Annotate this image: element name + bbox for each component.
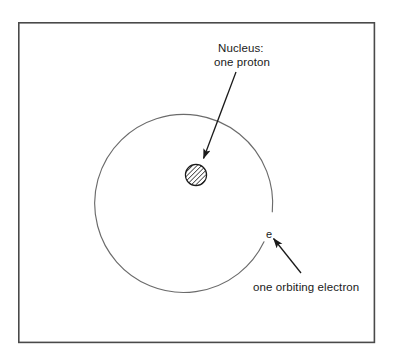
hydrogen-atom-figure: Nucleus: one proton e one orbiting elect… bbox=[0, 0, 394, 363]
electron-orbit bbox=[95, 114, 273, 292]
nucleus-callout-arrow bbox=[204, 72, 237, 159]
nucleus-callout-line-2: one proton bbox=[214, 56, 270, 68]
electron-symbol-label: e bbox=[266, 228, 272, 240]
electron-callout-arrow bbox=[274, 239, 302, 274]
electron-callout-line-1: one orbiting electron bbox=[253, 281, 359, 293]
atom-diagram-canvas: Nucleus: one proton e one orbiting elect… bbox=[0, 0, 394, 363]
nucleus-callout-line-1: Nucleus: bbox=[218, 42, 264, 54]
